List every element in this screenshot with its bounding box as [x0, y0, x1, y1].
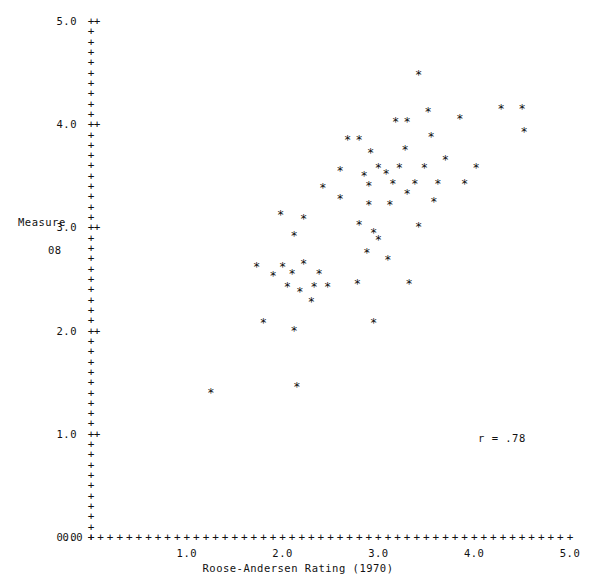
x-axis-tick: +: [191, 532, 201, 543]
data-point: *: [366, 147, 375, 156]
data-point: *: [395, 162, 404, 171]
data-point: *: [382, 168, 391, 177]
data-point: *: [441, 154, 450, 163]
y-axis-tick: +: [84, 233, 98, 244]
data-point: *: [405, 278, 414, 287]
x-axis-tick: +: [565, 532, 575, 543]
x-axis-tick: +: [86, 532, 96, 543]
data-point: *: [276, 209, 285, 218]
y-axis-tick: +: [84, 68, 98, 79]
x-axis-tick: +: [96, 532, 106, 543]
data-point: *: [360, 170, 369, 179]
data-point: *: [455, 113, 464, 122]
x-axis-tick: +: [373, 532, 383, 543]
data-point: *: [391, 116, 400, 125]
data-point: *: [401, 144, 410, 153]
y-axis-tick-label: 4.0: [29, 119, 77, 130]
data-point: *: [414, 221, 423, 230]
x-axis-tick: +: [105, 532, 115, 543]
y-axis-tick-label: 2.0: [29, 326, 77, 337]
x-axis-tick-label: 5.0: [550, 548, 590, 559]
y-axis-tick: +: [84, 264, 98, 275]
data-point: *: [336, 193, 345, 202]
x-axis-tick: +: [287, 532, 297, 543]
correlation-annotation: r = .78: [478, 432, 526, 444]
data-point: *: [355, 134, 364, 143]
y-axis-tick: +: [84, 449, 98, 460]
x-axis-tick: +: [278, 532, 288, 543]
data-point: *: [252, 261, 261, 270]
x-axis-tick: +: [450, 532, 460, 543]
x-axis-tick-label: 4.0: [454, 548, 494, 559]
data-point: *: [307, 296, 316, 305]
x-axis-tick: +: [402, 532, 412, 543]
x-axis-tick: +: [249, 532, 259, 543]
data-point: *: [295, 286, 304, 295]
x-axis-tick: +: [536, 532, 546, 543]
x-axis-tick: +: [345, 532, 355, 543]
data-point: *: [299, 258, 308, 267]
x-axis-tick: +: [297, 532, 307, 543]
y-axis-subtitle: 08: [48, 243, 62, 257]
x-axis-tick: +: [498, 532, 508, 543]
data-point: *: [385, 199, 394, 208]
y-axis-tick: +: [84, 480, 98, 491]
y-axis-major-tick: +: [90, 326, 104, 337]
x-axis-tick-label: 3.0: [358, 548, 398, 559]
x-axis-tick: +: [172, 532, 182, 543]
data-point: *: [278, 261, 287, 270]
data-point: *: [362, 247, 371, 256]
x-axis-tick: +: [134, 532, 144, 543]
y-axis-tick: +: [84, 202, 98, 213]
data-point: *: [310, 281, 319, 290]
y-axis-tick: +: [84, 295, 98, 306]
data-point: *: [518, 103, 527, 112]
data-point: *: [403, 116, 412, 125]
x-axis-tick: +: [412, 532, 422, 543]
data-point: *: [520, 126, 529, 135]
x-axis-tick: +: [335, 532, 345, 543]
data-point: *: [292, 381, 301, 390]
data-point: *: [288, 268, 297, 277]
x-axis-tick: +: [488, 532, 498, 543]
data-point: *: [429, 196, 438, 205]
data-point: *: [259, 317, 268, 326]
y-axis-tick: +: [84, 388, 98, 399]
x-axis-tick: +: [508, 532, 518, 543]
data-point: *: [290, 230, 299, 239]
x-axis-tick: +: [230, 532, 240, 543]
data-point: *: [433, 178, 442, 187]
x-axis-tick: +: [163, 532, 173, 543]
x-axis-tick: +: [316, 532, 326, 543]
data-point: *: [206, 387, 215, 396]
x-axis-title: Roose-Andersen Rating (1970): [0, 562, 596, 574]
x-axis-tick: +: [326, 532, 336, 543]
x-axis-tick: +: [258, 532, 268, 543]
data-point: *: [353, 278, 362, 287]
x-axis-tick-label: 0.0: [43, 532, 83, 543]
y-axis-major-tick: +: [90, 119, 104, 130]
x-axis-tick: +: [421, 532, 431, 543]
x-axis-tick: +: [201, 532, 211, 543]
y-axis-major-tick: +: [90, 429, 104, 440]
y-axis-tick: +: [84, 37, 98, 48]
data-point: *: [283, 281, 292, 290]
data-point: *: [374, 162, 383, 171]
x-axis-tick: +: [364, 532, 374, 543]
x-axis-tick: +: [115, 532, 125, 543]
x-axis-tick: +: [354, 532, 364, 543]
data-point: *: [369, 317, 378, 326]
data-point: *: [383, 254, 392, 263]
x-axis-tick: +: [469, 532, 479, 543]
y-axis-tick-label: 5.0: [29, 16, 77, 27]
x-axis-tick: +: [211, 532, 221, 543]
data-point: *: [410, 178, 419, 187]
data-point: *: [427, 131, 436, 140]
y-axis-tick: +: [84, 357, 98, 368]
data-point: *: [414, 69, 423, 78]
data-point: *: [318, 182, 327, 191]
x-axis-tick: +: [460, 532, 470, 543]
x-axis-tick-label: 1.0: [167, 548, 207, 559]
x-axis-tick: +: [393, 532, 403, 543]
x-axis-tick: +: [546, 532, 556, 543]
